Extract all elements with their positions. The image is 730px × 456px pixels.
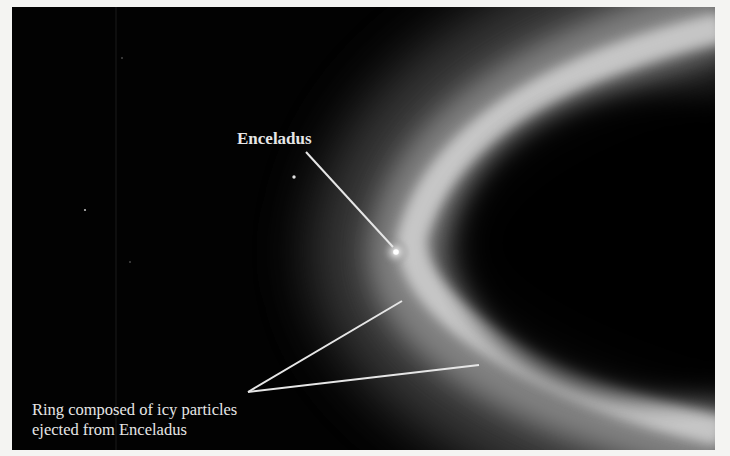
star [84,209,86,211]
star [129,261,131,263]
star [292,175,295,178]
ring-caption-line-1: Ring composed of icy particles [32,400,237,419]
enceladus-ring-photo: Enceladus Ring composed of icy particles… [12,7,715,450]
enceladus-moon [393,249,399,255]
ring-caption-line-2: ejected from Enceladus [32,420,187,439]
enceladus-label: Enceladus [237,129,312,148]
star [121,57,123,59]
